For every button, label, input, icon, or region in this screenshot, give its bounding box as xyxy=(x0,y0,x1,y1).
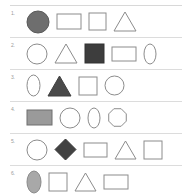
circle-shape xyxy=(26,139,48,161)
shape-group xyxy=(26,138,163,161)
triangle-shape xyxy=(74,172,97,192)
rectangle-shape xyxy=(111,46,137,62)
ellipse-shape xyxy=(26,74,41,97)
circle-shape xyxy=(26,43,48,65)
rectangle-shape xyxy=(26,109,53,126)
square-shape xyxy=(84,43,105,64)
shape-group xyxy=(26,74,125,97)
ellipse-shape xyxy=(143,43,157,65)
triangle-shape xyxy=(54,43,78,64)
shape-row: 2. xyxy=(10,38,182,70)
shape-group xyxy=(26,10,137,34)
shape-row: 1. xyxy=(10,6,182,38)
worksheet-page: 1.2.3.4.5.6. xyxy=(0,0,190,196)
triangle-shape xyxy=(114,140,137,160)
row-number: 4. xyxy=(11,107,15,112)
shape-group xyxy=(26,43,157,65)
circle-shape xyxy=(104,75,125,96)
triangle-shape xyxy=(47,75,72,97)
shape-row: 5. xyxy=(10,134,182,166)
ellipse-shape xyxy=(26,170,42,194)
diamond-shape xyxy=(54,138,77,161)
row-number: 5. xyxy=(11,139,15,144)
rectangle-shape xyxy=(103,174,129,190)
row-number: 1. xyxy=(11,11,15,16)
shape-row: 4. xyxy=(10,102,182,134)
square-shape xyxy=(78,76,98,96)
shape-group xyxy=(26,107,128,129)
square-shape xyxy=(143,140,163,160)
square-shape xyxy=(48,172,68,192)
circle-shape xyxy=(26,10,50,34)
octagon-shape xyxy=(107,107,128,128)
shape-row: 6. xyxy=(10,166,182,196)
shape-rows-list: 1.2.3.4.5.6. xyxy=(0,6,190,196)
ellipse-shape xyxy=(87,107,101,129)
row-number: 6. xyxy=(11,171,15,176)
rectangle-shape xyxy=(56,13,82,30)
shape-row: 3. xyxy=(10,70,182,102)
rectangle-shape xyxy=(83,142,108,158)
row-number: 3. xyxy=(11,75,15,80)
circle-shape xyxy=(59,107,81,129)
square-shape xyxy=(88,12,107,31)
row-number: 2. xyxy=(11,43,15,48)
shape-group xyxy=(26,170,129,194)
triangle-shape xyxy=(113,11,137,32)
